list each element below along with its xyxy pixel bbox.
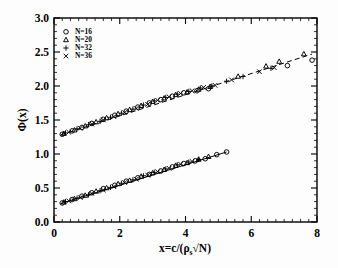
x-tick-label: 8 [314, 227, 320, 239]
y-tick-label: 3.0 [35, 12, 50, 24]
x-tick-label: 6 [248, 227, 254, 239]
y-tick-label: 1.5 [35, 114, 50, 126]
x-tick-label: 4 [183, 227, 189, 239]
plot-canvas: 02468 0.00.51.01.52.02.53.0 Φ(x) x=c/(ρs… [0, 0, 338, 268]
y-tick-label: 2.5 [35, 46, 50, 58]
circle-marker [285, 63, 290, 68]
figure-container: 02468 0.00.51.01.52.02.53.0 Φ(x) x=c/(ρs… [0, 0, 338, 268]
x-axis-title-head: x=c/(ρ [159, 242, 190, 255]
x-tick-label: 0 [51, 227, 57, 239]
triangle-marker [277, 59, 282, 63]
y-tick-label: 2.0 [35, 80, 50, 92]
y-axis-tick-labels: 0.00.51.01.52.02.53.0 [35, 12, 50, 228]
triangle-marker [236, 74, 241, 78]
legend-item: N=36 [64, 51, 93, 60]
triangle-marker [264, 64, 269, 68]
x-axis-title-tail: √N) [193, 242, 212, 255]
y-tick-label: 0.5 [35, 182, 50, 194]
x-axis-tick-labels: 02468 [51, 227, 320, 239]
y-axis-title: Φ(x) [16, 108, 29, 131]
triangle-marker [301, 51, 306, 55]
y-tick-label: 0.0 [35, 216, 50, 228]
x-tick-label: 2 [117, 227, 123, 239]
circle-marker [64, 30, 69, 35]
data-point-markers [60, 51, 314, 205]
x-axis-title: x=c/(ρs√N) [159, 242, 211, 257]
fit-lines [61, 54, 312, 204]
triangle-marker [64, 37, 69, 41]
circle-marker [310, 58, 315, 63]
legend-label: N=36 [75, 51, 92, 60]
legend: N=16N=20N=32N=36 [63, 27, 92, 60]
y-tick-label: 1.0 [35, 148, 50, 160]
